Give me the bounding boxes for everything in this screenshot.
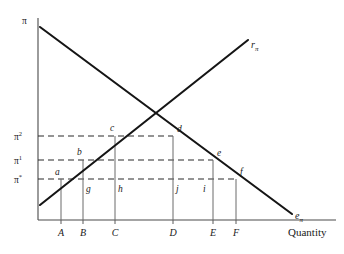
svg-text:π*: π*: [14, 173, 22, 185]
point-label-i: i: [203, 184, 206, 194]
point-label-b: b: [77, 147, 82, 157]
point-label-g: g: [86, 184, 91, 194]
y-tick-pi1-sup: 1: [19, 154, 22, 161]
x-tick-label-B: B: [80, 227, 86, 238]
x-tick-label-E: E: [209, 227, 216, 238]
point-label-a: a: [55, 167, 60, 177]
point-label-e: e: [217, 148, 221, 158]
curve-label-e-pi: eπ: [295, 210, 303, 224]
svg-text:π1: π1: [14, 154, 22, 166]
point-label-h: h: [118, 184, 123, 194]
curve-label-r-pi-sub: π: [255, 45, 259, 53]
point-label-j: j: [174, 184, 179, 194]
x-tick-label-D: D: [168, 227, 177, 238]
y-tick-pi1: π1: [14, 154, 22, 166]
diagram-canvas: π Quantity π2 π1 π*: [0, 0, 344, 254]
curve-label-e-pi-sub: π: [299, 216, 303, 224]
svg-text:π2: π2: [14, 130, 22, 142]
x-tick-label-F: F: [232, 227, 240, 238]
y-axis-label: π: [22, 16, 27, 26]
curve-r-pi: [40, 40, 248, 205]
y-tick-pistar: π*: [14, 173, 22, 185]
y-tick-pi2-sup: 2: [19, 130, 22, 137]
curve-label-r-pi: rπ: [251, 39, 259, 53]
x-axis-label: Quantity: [288, 226, 327, 238]
x-tick-label-A: A: [57, 227, 65, 238]
point-label-c: c: [110, 123, 115, 133]
y-tick-pi2: π2: [14, 130, 22, 142]
y-tick-pistar-sup: *: [19, 173, 22, 180]
x-tick-label-C: C: [112, 227, 119, 238]
point-label-d: d: [177, 124, 182, 134]
point-label-f: f: [240, 167, 244, 177]
curve-e-pi: [40, 27, 292, 214]
economics-diagram: π Quantity π2 π1 π*: [0, 0, 344, 254]
